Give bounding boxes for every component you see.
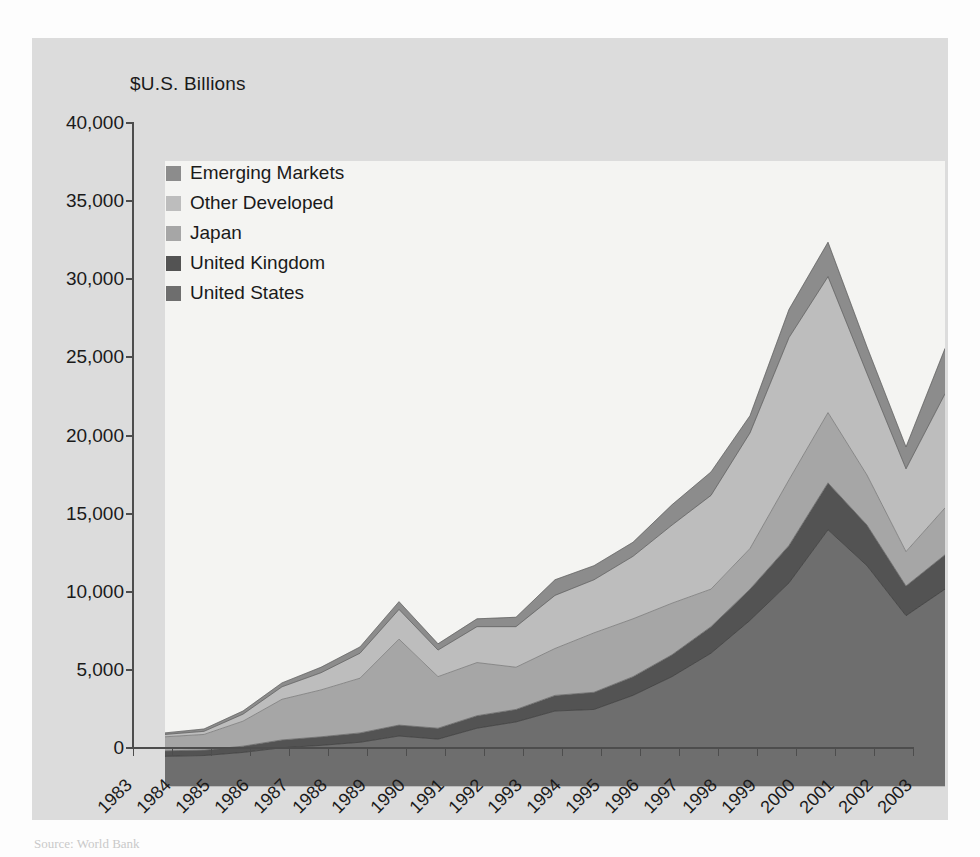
y-axis-tick-mark — [126, 669, 134, 671]
y-axis-tick-label: 20,000 — [66, 425, 124, 447]
x-axis-tick-mark — [718, 749, 719, 756]
y-axis-tick-label: 10,000 — [66, 581, 124, 603]
x-axis-tick-mark — [133, 749, 134, 756]
x-axis-tick-mark — [835, 749, 836, 756]
y-axis-tick-mark — [126, 122, 134, 124]
x-axis-tick-mark — [484, 749, 485, 756]
legend-swatch-icon — [166, 196, 181, 211]
legend-item: Emerging Markets — [166, 158, 344, 188]
y-axis-tick-mark — [126, 200, 134, 202]
x-axis-tick-mark — [562, 749, 563, 756]
legend-label: Japan — [190, 222, 242, 244]
x-axis-tick-mark — [679, 749, 680, 756]
legend-label: United Kingdom — [190, 252, 325, 274]
y-axis-tick-label: 15,000 — [66, 503, 124, 525]
y-axis-title: $U.S. Billions — [130, 73, 246, 95]
y-axis-tick-label: 25,000 — [66, 346, 124, 368]
legend-swatch-icon — [166, 226, 181, 241]
legend-item: United States — [166, 278, 344, 308]
x-axis-tick-mark — [874, 749, 875, 756]
chart-legend: Emerging MarketsOther DevelopedJapanUnit… — [166, 158, 344, 308]
legend-item: United Kingdom — [166, 248, 344, 278]
x-axis-tick-mark — [445, 749, 446, 756]
legend-swatch-icon — [166, 166, 181, 181]
legend-item: Other Developed — [166, 188, 344, 218]
x-axis-tick-mark — [367, 749, 368, 756]
x-axis-tick-mark — [601, 749, 602, 756]
source-note: Source: World Bank — [34, 836, 140, 852]
x-axis-tick-mark — [328, 749, 329, 756]
y-axis-tick-labels: 05,00010,00015,00020,00025,00030,00035,0… — [0, 0, 124, 857]
y-axis-tick-label: 35,000 — [66, 190, 124, 212]
chart-card — [32, 38, 948, 820]
x-axis-tick-mark — [289, 749, 290, 756]
y-axis-tick-label: 5,000 — [76, 659, 124, 681]
y-axis-tick-mark — [126, 435, 134, 437]
y-axis-tick-label: 30,000 — [66, 268, 124, 290]
x-axis-tick-mark — [250, 749, 251, 756]
legend-label: United States — [190, 282, 304, 304]
x-axis-tick-mark — [913, 749, 914, 756]
x-axis-tick-mark — [757, 749, 758, 756]
y-axis-tick-mark — [126, 356, 134, 358]
legend-item: Japan — [166, 218, 344, 248]
legend-swatch-icon — [166, 256, 181, 271]
legend-label: Other Developed — [190, 192, 334, 214]
y-axis-tick-mark — [126, 591, 134, 593]
y-axis-tick-label: 0 — [113, 737, 124, 759]
page-background: $U.S. Billions 05,00010,00015,00020,0002… — [0, 0, 980, 857]
y-axis-tick-mark — [126, 513, 134, 515]
x-axis-tick-mark — [523, 749, 524, 756]
x-axis-tick-mark — [172, 749, 173, 756]
x-axis-tick-mark — [211, 749, 212, 756]
legend-swatch-icon — [166, 286, 181, 301]
legend-label: Emerging Markets — [190, 162, 344, 184]
x-axis-tick-mark — [640, 749, 641, 756]
y-axis-tick-mark — [126, 278, 134, 280]
x-axis-tick-mark — [406, 749, 407, 756]
x-axis-tick-mark — [796, 749, 797, 756]
y-axis-tick-label: 40,000 — [66, 112, 124, 134]
